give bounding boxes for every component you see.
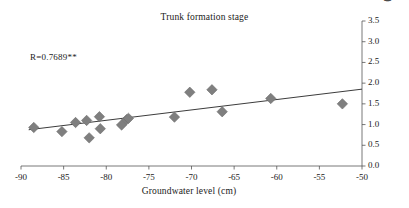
data-point: [84, 133, 94, 143]
data-point: [81, 115, 91, 125]
x-tick-label: -65: [219, 172, 249, 182]
data-point: [95, 124, 105, 134]
x-axis-title: Groundwater level (cm): [0, 186, 378, 196]
x-tick-label: -85: [49, 172, 79, 182]
x-tick-label: -55: [304, 172, 334, 182]
x-tick-label: -75: [134, 172, 164, 182]
data-point: [207, 85, 217, 95]
y-axis-title-wrap: Trunk height increase rate (m/year): [378, 18, 392, 188]
x-tick-label: -70: [177, 172, 207, 182]
x-tick-label: -80: [91, 172, 121, 182]
data-point: [70, 117, 80, 127]
x-tick-label: -60: [262, 172, 292, 182]
scatter-chart: Trunk formation stage R=0.7689** -90-85-…: [0, 0, 409, 208]
data-point: [266, 93, 276, 103]
data-points: [29, 85, 348, 143]
data-point: [337, 99, 347, 109]
data-point: [29, 122, 39, 132]
data-point: [185, 87, 195, 97]
data-point: [217, 107, 227, 117]
y-axis-title: Trunk height increase rate (m/year): [379, 0, 393, 18]
x-tick-label: -90: [6, 172, 36, 182]
x-tick-label: -50: [347, 172, 377, 182]
data-point: [57, 126, 67, 136]
data-point: [169, 112, 179, 122]
